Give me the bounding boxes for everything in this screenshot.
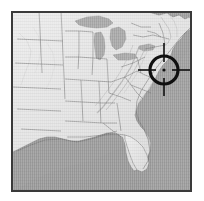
relief-map-canvas[interactable] <box>13 13 190 190</box>
map-screenshot <box>0 0 204 201</box>
map-frame[interactable] <box>11 11 192 192</box>
